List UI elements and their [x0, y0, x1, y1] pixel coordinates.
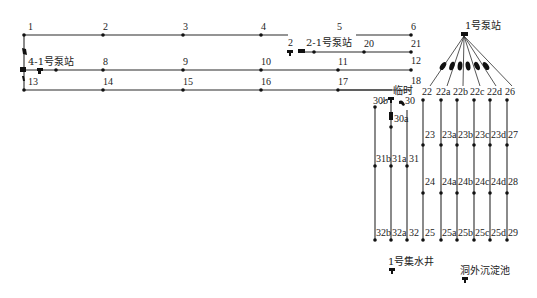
node-label: 23d	[491, 129, 506, 140]
main-pipelines	[24, 35, 411, 90]
node-label: 30	[405, 95, 415, 106]
settling-pond-label: 洞外沉淀池	[460, 264, 510, 276]
node-label: 17	[338, 76, 348, 87]
node-label: 21	[411, 38, 421, 49]
node-label: 23c	[475, 129, 490, 140]
pump-2-1-group	[287, 49, 305, 56]
node-label: 16	[261, 76, 271, 87]
node-label: 22	[422, 86, 432, 97]
node-label: 32	[409, 227, 419, 238]
pump-icon	[37, 68, 43, 74]
pump-icon	[20, 67, 26, 72]
pump-1-label: 1号泵站	[465, 19, 501, 31]
settling-pond: 洞外沉淀池	[460, 264, 510, 283]
node-label: 23b	[458, 129, 473, 140]
node-label: 11	[338, 56, 348, 67]
sump-1-label: 1号集水井	[388, 255, 434, 267]
node-label: 22a	[436, 86, 451, 97]
node-label: 25d	[491, 227, 506, 238]
node-label: 25c	[475, 227, 490, 238]
node-label: 14	[103, 76, 113, 87]
node-label: 27	[508, 129, 518, 140]
row-nodes	[22, 33, 413, 92]
node-label: 12	[411, 55, 421, 66]
pump-icon	[462, 277, 468, 283]
node-label: 20	[364, 38, 374, 49]
column-labels: 22 22a 22b 22c 22d 26 30b 30 30a 23 23a …	[373, 86, 518, 238]
node-label: 29	[508, 227, 518, 238]
row-labels: 1 2 3 4 5 6 2 2-1号泵站 20 21 4-1号泵站 8 9 10…	[28, 21, 421, 96]
node-label: 3	[183, 21, 188, 32]
node-label: 31	[409, 153, 419, 164]
node-label: 4	[261, 21, 266, 32]
node-label: 30a	[394, 113, 409, 124]
pump-icon	[388, 97, 394, 103]
node-label: 32b	[376, 227, 391, 238]
node-label: 24c	[475, 176, 490, 187]
node-label: 9	[183, 56, 188, 67]
pump-icon	[389, 112, 393, 120]
pump-icon	[465, 61, 471, 71]
node-label: 25a	[442, 227, 457, 238]
node-label: 15	[183, 76, 193, 87]
node-label: 6	[411, 21, 416, 32]
pump-icon	[389, 268, 395, 274]
node-label: 8	[103, 56, 108, 67]
node-label: 22d	[487, 86, 502, 97]
node-label: 10	[261, 56, 271, 67]
pump-icon	[298, 49, 305, 53]
node-label: 1	[28, 21, 33, 32]
pump-icon	[461, 32, 468, 36]
node-label: 28	[508, 176, 518, 187]
node-label: 22c	[470, 86, 485, 97]
node-label: 24	[425, 176, 435, 187]
pump-icon	[473, 61, 481, 71]
node-label: 26	[505, 86, 515, 97]
node-label: 24b	[458, 176, 473, 187]
node-label: 5	[337, 21, 342, 32]
pump-2-1-label: 2-1号泵站	[306, 36, 352, 48]
node-label: 25	[425, 227, 435, 238]
node-label: 2	[288, 37, 293, 48]
node-label: 25b	[458, 227, 473, 238]
node-label: 23	[425, 129, 435, 140]
node-label: 23a	[442, 129, 457, 140]
pump-icon	[457, 61, 463, 70]
pump-station-1: 1号泵站	[430, 19, 512, 86]
node-label: 13	[28, 76, 38, 87]
node-label: 24d	[491, 176, 506, 187]
node-label: 31a	[392, 153, 407, 164]
node-label: 32a	[392, 227, 407, 238]
pump-icon	[22, 48, 27, 55]
drainage-network-diagram: 1 2 3 4 5 6 2 2-1号泵站 20 21 4-1号泵站 8 9 10…	[0, 0, 537, 298]
node-label: 2	[103, 21, 108, 32]
node-label: 30b	[373, 95, 388, 106]
sump-1: 1号集水井	[388, 255, 434, 274]
node-label: 22b	[453, 86, 468, 97]
node-label: 24a	[442, 176, 457, 187]
pump-4-1-label: 4-1号泵站	[28, 55, 74, 67]
pump-icon	[287, 50, 293, 56]
node-label: 31b	[376, 153, 391, 164]
